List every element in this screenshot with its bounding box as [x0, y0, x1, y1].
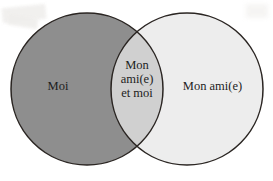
- venn-circles-graphic: [0, 0, 273, 181]
- venn-diagram: Moi Mon ami(e) et moi Mon ami(e): [0, 0, 273, 181]
